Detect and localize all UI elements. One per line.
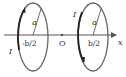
current-label: I (8, 47, 13, 56)
origin-dot (61, 34, 63, 36)
current-label: I (72, 10, 77, 19)
two-loops-diagram: x O a -b/2 I a b/2 I (0, 0, 126, 77)
current-arrow-icon (22, 7, 26, 13)
x-axis-label: x (118, 38, 123, 47)
radius-label: a (92, 18, 97, 27)
left-loop: a -b/2 I (8, 3, 48, 71)
radius-label: a (32, 18, 37, 27)
right-loop: a b/2 I (72, 3, 108, 71)
position-label: -b/2 (22, 39, 37, 48)
position-label: b/2 (88, 39, 100, 48)
origin-label: O (59, 39, 66, 48)
